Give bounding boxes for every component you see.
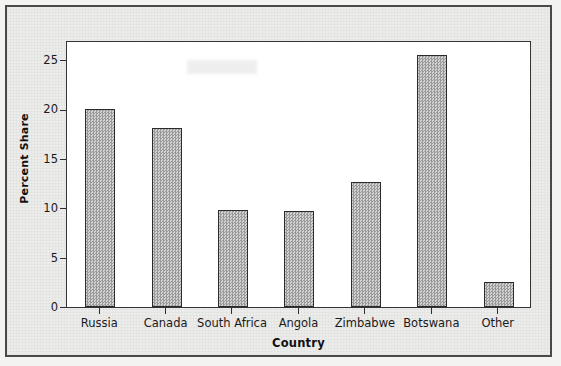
x-tick-mark bbox=[231, 308, 232, 314]
y-tick-mark bbox=[60, 110, 66, 111]
y-tick-label-text: 15 bbox=[36, 154, 58, 166]
y-tick-label: 20 bbox=[33, 104, 58, 116]
bar-chart: Percent Share Country 0510152025RussiaCa… bbox=[0, 0, 561, 366]
y-tick-label: 0 bbox=[33, 302, 58, 314]
y-tick-label: 15 bbox=[33, 154, 58, 166]
y-tick-label-text: 5 bbox=[36, 253, 58, 265]
x-tick-mark bbox=[497, 308, 498, 314]
x-tick-mark bbox=[431, 308, 432, 314]
y-tick-label-text: 20 bbox=[36, 104, 58, 116]
axes-layer: Percent Share Country 0510152025RussiaCa… bbox=[0, 0, 561, 366]
x-tick-mark bbox=[99, 308, 100, 314]
x-axis-title: Country bbox=[66, 336, 531, 350]
y-tick-label-text: 25 bbox=[36, 55, 58, 67]
y-tick-mark bbox=[60, 159, 66, 160]
y-tick-label: 5 bbox=[33, 253, 58, 265]
y-axis-title: Percent Share bbox=[18, 111, 31, 207]
y-tick-label-text: 10 bbox=[36, 203, 58, 215]
y-tick-mark bbox=[60, 307, 66, 308]
x-tick-label-other: Other bbox=[459, 317, 537, 330]
y-tick-label-text: 0 bbox=[36, 302, 58, 314]
y-tick-mark bbox=[60, 208, 66, 209]
x-tick-mark bbox=[364, 308, 365, 314]
x-tick-mark bbox=[165, 308, 166, 314]
y-tick-label: 25 bbox=[33, 55, 58, 67]
y-tick-mark bbox=[60, 60, 66, 61]
y-tick-mark bbox=[60, 258, 66, 259]
x-tick-mark bbox=[298, 308, 299, 314]
y-tick-label: 10 bbox=[33, 203, 58, 215]
